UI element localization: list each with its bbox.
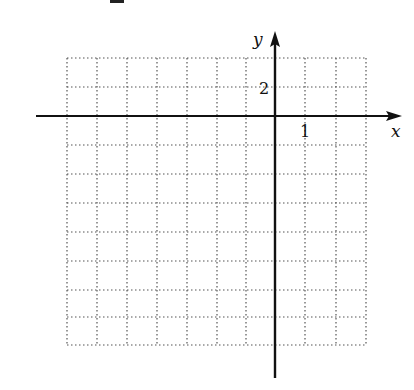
grid [67,58,366,345]
x-axis [36,111,402,121]
cropped-mark [110,0,124,3]
x-axis-label: x [391,121,401,141]
coordinate-plane: y x 2 1 [0,0,414,390]
x-tick-label: 1 [300,122,310,141]
y-axis [270,31,280,378]
y-axis-label: y [252,29,263,49]
y-tick-label: 2 [259,79,269,98]
